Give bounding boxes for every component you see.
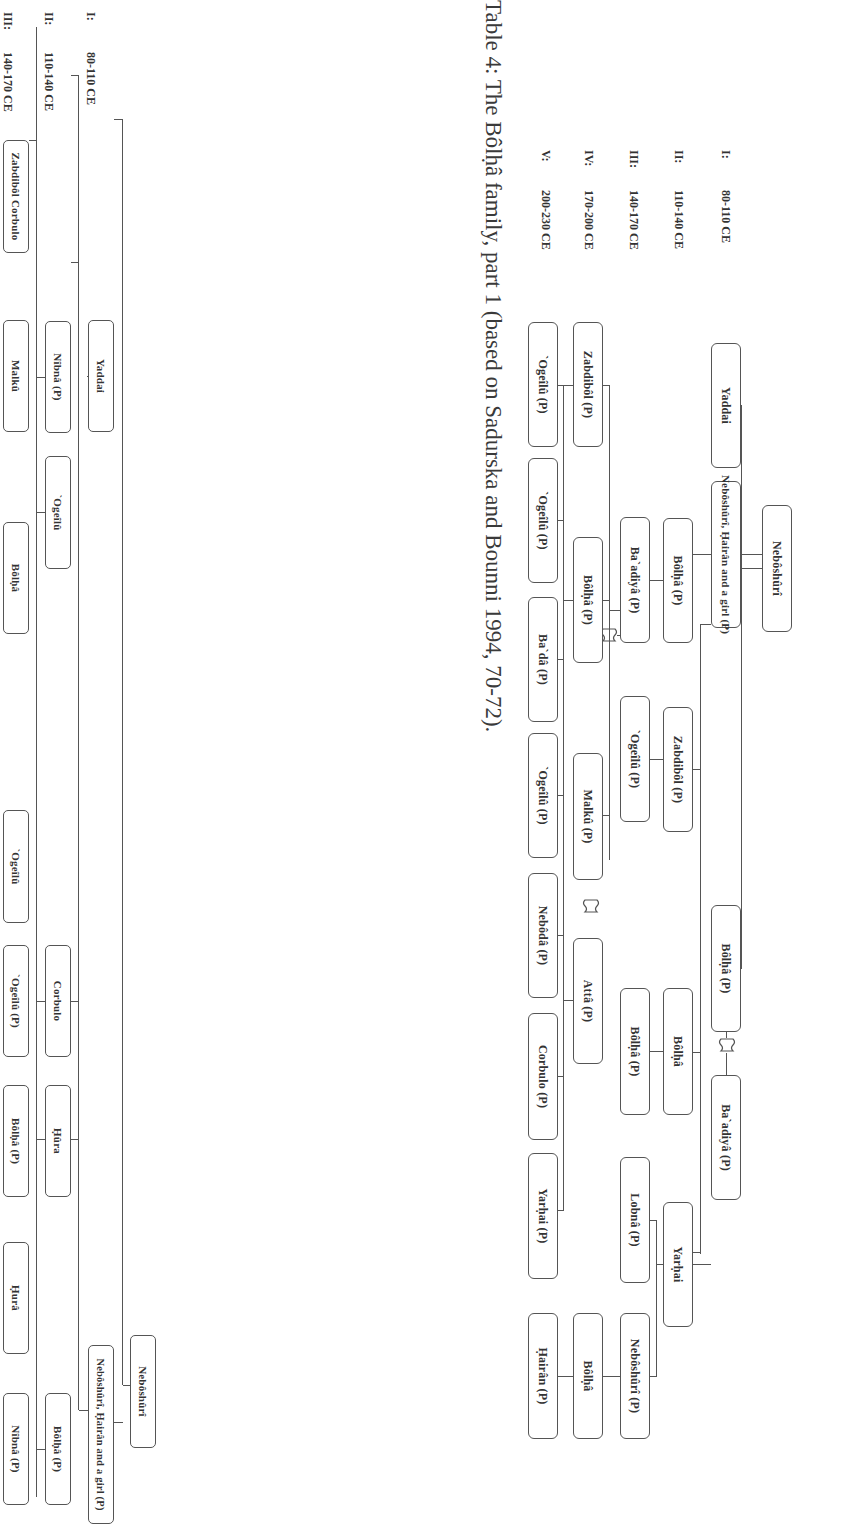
person-box: Bôlḥâ (P) <box>663 518 693 643</box>
person-box: Nebôshûrî, Ḥairân and a girl (P) <box>711 481 741 628</box>
person-box: `Ogeîlû (P) <box>620 696 650 822</box>
person-box: Malkû (P) <box>573 753 603 880</box>
gen-label-II: II:110-140 CE <box>671 150 686 249</box>
gen-label-III-b: III:140-170 CE <box>0 12 15 112</box>
person-box: Attâ (P) <box>573 938 603 1064</box>
gen-label-III: III:140-170 CE <box>626 150 641 250</box>
person-box: Ḥairân (P) <box>528 1313 558 1439</box>
table-caption: Table 4: The Bôlḥâ family, part 1 (based… <box>480 0 506 732</box>
gen-label-IV: IV:170-200 CE <box>581 150 596 250</box>
person-box: Yarḥai (P) <box>528 1153 558 1279</box>
person-box: `Ogeîlû <box>45 456 71 569</box>
person-box: Bôlḥâ <box>3 522 29 634</box>
person-box: Corbulo (P) <box>528 1013 558 1140</box>
person-box: Bôlḥâ <box>573 1313 603 1439</box>
gen-label-V: V:200-230 CE <box>538 150 553 250</box>
person-box: Bôlḥâ (P) <box>45 1393 71 1505</box>
person-box: Bôlḥâ (P) <box>711 905 741 1032</box>
person-box: Ba`adiyâ (P) <box>711 1075 741 1200</box>
gen-label-I: I:80-110 CE <box>718 150 733 243</box>
person-box: Malkû <box>3 320 29 432</box>
person-box: Yarḥai <box>663 1202 693 1327</box>
person-box: Nebôshûrî, Ḥairân and a girl (P) <box>88 1345 114 1524</box>
person-box: `Ogeîlû (P) <box>528 322 558 447</box>
person-box: `Ogeîlû (P) <box>528 458 558 583</box>
person-box: Bôlḥâ <box>663 988 693 1115</box>
person-box: Nîbnâ (P) <box>45 321 71 433</box>
person-box: Ḥurâ <box>3 1242 29 1354</box>
person-box: Bôlḥâ (P) <box>3 1085 29 1197</box>
person-box: Lobnâ (P) <box>620 1157 650 1283</box>
person-box: Zabdibôl Corbulo <box>3 140 29 253</box>
person-box: `Ogeîlû <box>3 810 29 923</box>
person-box: Nîbnâ (P) <box>3 1393 29 1505</box>
person-box: Nebôshûrî (P) <box>620 1313 650 1439</box>
person-box: Ḥûra <box>45 1085 71 1197</box>
person-box: Nebôdâ (P) <box>528 873 558 998</box>
person-box: `Ogeîlû (P) <box>3 945 29 1057</box>
gen-label-I-b: I:80-110 CE <box>83 12 98 105</box>
person-box: `Ogeîlû (P) <box>528 733 558 858</box>
person-box: Nebôshûrî <box>130 1335 156 1448</box>
gen-label-II-b: II:110-140 CE <box>41 12 56 111</box>
wavy-flag-icon <box>718 1037 736 1053</box>
wavy-flag-icon <box>582 898 600 914</box>
rotated-page: Table 4: The Bôlḥâ family, part 1 (based… <box>0 0 846 1524</box>
person-box: Zabdibôl (P) <box>663 707 693 832</box>
person-box: Ba`dâ (P) <box>528 597 558 722</box>
person-box: Yaddai <box>711 343 741 468</box>
person-box: Zabdibôl (P) <box>573 322 603 447</box>
person-box: Nebôshûrî <box>762 505 792 632</box>
person-box: Yaddai <box>88 320 114 432</box>
person-box: Bôlḥâ (P) <box>620 988 650 1115</box>
person-box: Corbulo <box>45 945 71 1057</box>
person-box: Ba`adiyâ (P) <box>620 517 650 643</box>
person-box: Bôlḥâ (P) <box>573 537 603 663</box>
